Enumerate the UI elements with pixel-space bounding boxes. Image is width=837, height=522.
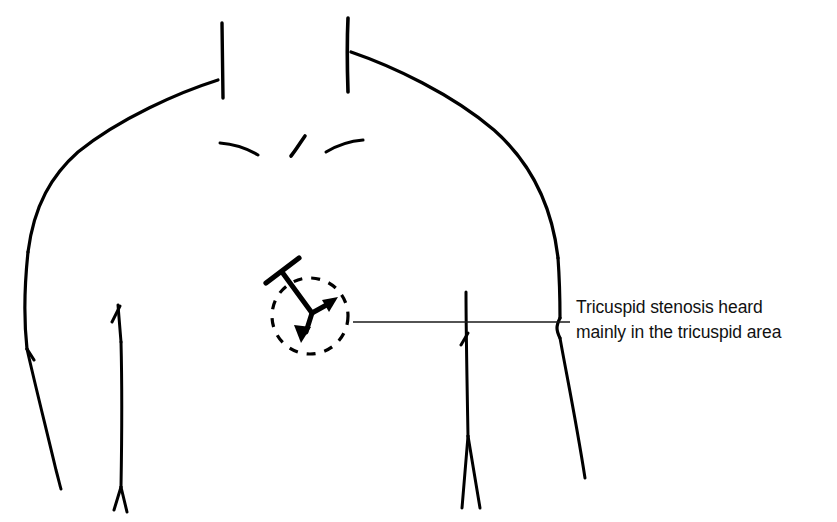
diagram-background: [0, 0, 837, 522]
neck-left-line: [222, 23, 223, 98]
annotation-line-1: Tricuspid stenosis heard: [576, 295, 834, 320]
annotation-line-2: mainly in the tricuspid area: [576, 320, 834, 345]
neck-right-line: [347, 18, 348, 92]
arm-left-inner-line: [121, 342, 122, 487]
annotation-label: Tricuspid stenosis heard mainly in the t…: [576, 295, 834, 345]
anatomy-illustration: [0, 0, 837, 522]
tricuspid-stenosis-diagram: Tricuspid stenosis heard mainly in the t…: [0, 0, 837, 522]
